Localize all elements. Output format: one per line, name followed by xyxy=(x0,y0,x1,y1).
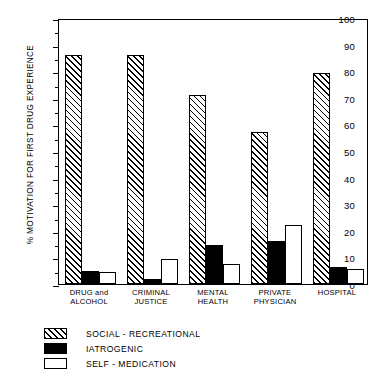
bar xyxy=(82,271,99,284)
y-tick-major xyxy=(53,47,59,48)
bar xyxy=(65,55,82,284)
y-tick-major xyxy=(53,126,59,127)
y-tick-major xyxy=(53,206,59,207)
y-tick-major xyxy=(53,73,59,74)
y-tick-major xyxy=(53,180,59,181)
legend-swatch xyxy=(44,343,67,354)
y-tick-label: 90 xyxy=(321,42,355,52)
y-tick-minor xyxy=(55,60,59,61)
bar xyxy=(161,259,178,284)
y-tick-minor xyxy=(55,113,59,114)
y-tick-major xyxy=(53,259,59,260)
y-tick-major xyxy=(53,100,59,101)
legend-label: SELF - MEDICATION xyxy=(86,359,176,369)
legend-item: SOCIAL - RECREATIONAL xyxy=(44,326,294,341)
y-tick-minor xyxy=(55,273,59,274)
bar xyxy=(330,267,347,284)
bar xyxy=(206,245,223,284)
chart-figure: % MOTIVATION FOR FIRST DRUG EXPERIENCE 0… xyxy=(0,0,377,378)
legend-swatch xyxy=(44,358,67,369)
y-tick-major xyxy=(53,20,59,21)
bar xyxy=(223,264,240,284)
bar xyxy=(144,279,161,284)
y-tick-major xyxy=(53,286,59,287)
bar xyxy=(268,241,285,284)
y-tick-minor xyxy=(55,87,59,88)
plot-area: 0102030405060708090100 xyxy=(58,19,368,285)
legend-label: SOCIAL - RECREATIONAL xyxy=(86,329,201,339)
chart-legend: SOCIAL - RECREATIONALIATROGENICSELF - ME… xyxy=(44,326,294,371)
bar xyxy=(99,272,116,284)
bar xyxy=(189,95,206,284)
bar xyxy=(347,269,364,284)
bar xyxy=(127,55,144,284)
bar xyxy=(313,73,330,284)
y-tick-minor xyxy=(55,140,59,141)
bar xyxy=(285,225,302,284)
y-tick-minor xyxy=(55,166,59,167)
y-tick-major xyxy=(53,233,59,234)
y-tick-minor xyxy=(55,246,59,247)
y-tick-major xyxy=(53,153,59,154)
bar xyxy=(251,132,268,284)
category-label: HOSPITAL xyxy=(287,289,377,298)
legend-item: SELF - MEDICATION xyxy=(44,356,294,371)
y-tick-minor xyxy=(55,193,59,194)
y-axis-title: % MOTIVATION FOR FIRST DRUG EXPERIENCE xyxy=(26,0,35,290)
y-tick-minor xyxy=(55,33,59,34)
y-tick-label: 100 xyxy=(321,15,355,25)
legend-swatch xyxy=(44,328,67,339)
legend-item: IATROGENIC xyxy=(44,341,294,356)
legend-label: IATROGENIC xyxy=(86,344,143,354)
y-tick-minor xyxy=(55,220,59,221)
